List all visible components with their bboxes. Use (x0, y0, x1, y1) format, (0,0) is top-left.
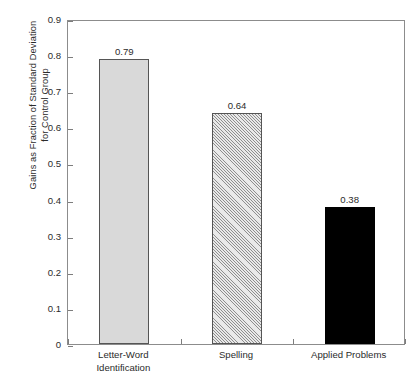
bar-value-label: 0.79 (94, 46, 154, 57)
y-axis-tick-label: 0.3 (33, 232, 61, 242)
x-axis-category-label: Applied Problems (279, 349, 419, 362)
y-axis-tick-mark (68, 238, 73, 239)
x-axis-tick-mark (68, 339, 69, 344)
y-axis-tick-mark (68, 346, 73, 347)
y-axis-tick-mark (68, 165, 73, 166)
y-axis-tick-label: 0.9 (33, 15, 61, 25)
y-axis-tick-mark (68, 274, 73, 275)
y-axis-tick-label: 0.7 (33, 87, 61, 97)
bar-value-label: 0.64 (207, 100, 267, 111)
y-axis-tick-label: 0.5 (33, 159, 61, 169)
y-axis-tick-labels: 00.10.20.30.40.50.60.70.80.9 (31, 0, 61, 387)
x-axis-tick-labels: Letter-WordIdentificationSpellingApplied… (67, 349, 405, 387)
y-axis-tick-label: 0.4 (33, 196, 61, 206)
bar (325, 207, 375, 344)
y-axis-tick-mark (68, 310, 73, 311)
x-axis-tick-mark (405, 339, 406, 344)
y-axis-tick-mark (68, 129, 73, 130)
y-axis-tick-mark (68, 93, 73, 94)
bar-chart: Gains as Fraction of Standard Deviation … (0, 0, 419, 387)
y-axis-tick-label: 0.2 (33, 268, 61, 278)
x-axis-tick-mark (181, 339, 182, 344)
y-axis-tick-mark (68, 57, 73, 58)
y-axis-tick-label: 0.6 (33, 123, 61, 133)
y-axis-tick-label: 0.8 (33, 51, 61, 61)
plot-area: 0.790.640.38 (67, 20, 405, 345)
bar (99, 59, 149, 344)
x-axis-category-label-line: Applied Problems (279, 349, 419, 362)
bar (212, 113, 262, 344)
y-axis-tick-mark (68, 21, 73, 22)
y-axis-tick-mark (68, 202, 73, 203)
bar-value-label: 0.38 (320, 194, 380, 205)
x-axis-category-label-line: Identification (53, 362, 193, 375)
y-axis-tick-label: 0.1 (33, 304, 61, 314)
x-axis-tick-mark (293, 339, 294, 344)
